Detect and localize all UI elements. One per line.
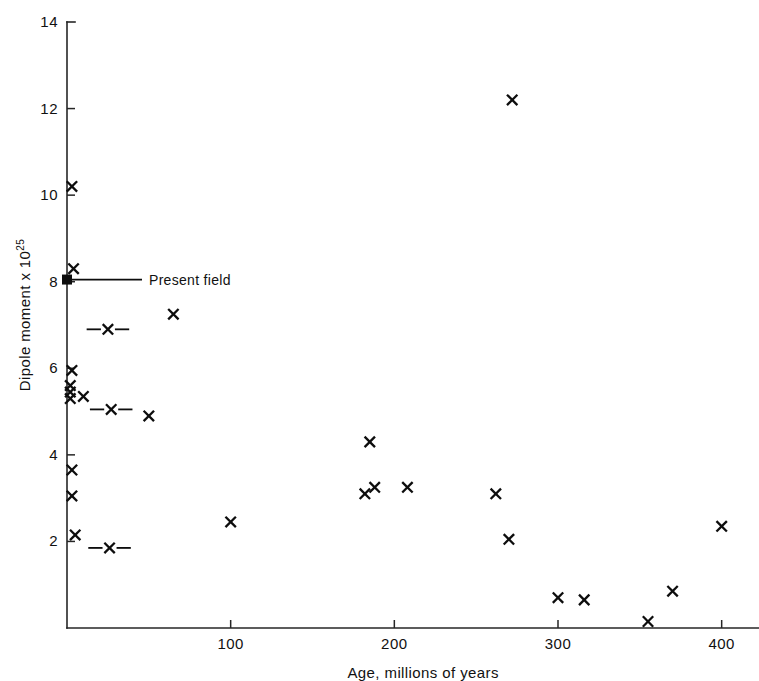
x-tick-label: 100 — [217, 635, 244, 652]
data-points — [65, 95, 727, 627]
scatter-plot: 2468101214100200300400 Present field Age… — [0, 0, 759, 681]
data-point-marker — [68, 264, 78, 274]
y-axis-title-exponent: 25 — [15, 239, 26, 251]
data-point-marker — [168, 309, 178, 319]
annotations: Present field — [62, 272, 231, 288]
y-axis-title: Dipole moment x 1025 — [15, 239, 33, 392]
data-point-marker — [225, 517, 235, 527]
y-tick-label: 12 — [40, 100, 58, 117]
error-bar-center-marker — [104, 543, 114, 553]
data-point-marker — [144, 411, 154, 421]
data-point-marker — [67, 491, 77, 501]
data-point-with-error-bar — [87, 324, 130, 334]
y-tick-label: 6 — [49, 359, 58, 376]
data-point-marker — [579, 595, 589, 605]
present-field-marker — [62, 275, 72, 285]
data-point-marker — [67, 181, 77, 191]
data-point-with-error-bar — [90, 404, 133, 414]
data-point-marker — [365, 437, 375, 447]
present-field-annotation: Present field — [62, 272, 231, 288]
y-tick-label: 14 — [40, 13, 58, 30]
error-bar-center-marker — [106, 404, 116, 414]
data-point-with-error-bar — [88, 543, 131, 553]
x-axis-title: Age, millions of years — [347, 664, 498, 681]
y-tick-label: 8 — [49, 273, 58, 290]
data-point-marker — [504, 534, 514, 544]
x-tick-label: 300 — [545, 635, 572, 652]
figure-container: 2468101214100200300400 Present field Age… — [0, 0, 759, 681]
data-point-marker — [491, 489, 501, 499]
data-point-marker — [67, 465, 77, 475]
y-tick-label: 2 — [49, 532, 58, 549]
y-tick-label: 4 — [49, 446, 58, 463]
y-tick-label: 10 — [40, 186, 58, 203]
data-point-marker — [716, 521, 726, 531]
data-point-marker — [67, 365, 77, 375]
data-point-marker — [369, 482, 379, 492]
present-field-label: Present field — [149, 272, 231, 288]
axis-tick-labels: 2468101214100200300400 — [40, 13, 735, 652]
data-point-marker — [553, 593, 563, 603]
data-point-marker — [667, 586, 677, 596]
x-tick-label: 400 — [708, 635, 735, 652]
data-point-marker — [402, 482, 412, 492]
data-point-marker — [70, 530, 80, 540]
axis-ticks — [67, 109, 722, 628]
axes — [67, 22, 759, 628]
axis-titles: Age, millions of yearsDipole moment x 10… — [15, 239, 499, 681]
data-point-marker — [78, 391, 88, 401]
x-tick-label: 200 — [381, 635, 408, 652]
error-bar-center-marker — [103, 324, 113, 334]
data-point-marker — [643, 616, 653, 626]
data-point-marker — [507, 95, 517, 105]
data-point-marker — [360, 489, 370, 499]
y-axis-title-text: Dipole moment x 10 — [16, 251, 33, 392]
data-points-with-error-bars — [87, 324, 133, 553]
